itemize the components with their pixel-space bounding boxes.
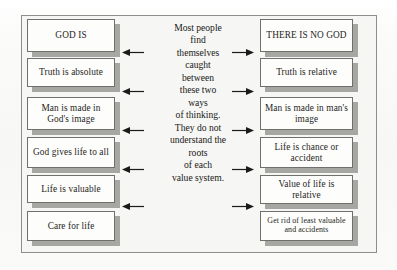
right-box-3-label: Man is made in man's image — [261, 103, 352, 124]
left-box-2: Truth is absolute — [27, 58, 115, 87]
left-box-1: GOD IS — [27, 19, 115, 52]
arrow-left-3 — [122, 126, 144, 135]
right-box-4-label: Life is chance or accident — [261, 142, 352, 163]
right-box-2-label: Truth is relative — [261, 67, 352, 77]
left-box-3-label: Man is made in God's image — [28, 103, 114, 124]
center-line: roots — [150, 147, 246, 159]
right-box-4: Life is chance or accident — [260, 137, 353, 168]
arrow-right-3 — [232, 126, 254, 135]
arrow-right-1 — [232, 48, 254, 57]
left-box-5: Life is valuable — [27, 175, 115, 203]
center-line: Most people — [150, 22, 246, 34]
right-box-6-label: Get rid of least valuable and accidents — [261, 217, 352, 235]
left-box-6: Care for life — [27, 211, 115, 241]
right-box-6: Get rid of least valuable and accidents — [260, 211, 353, 241]
left-box-3: Man is made in God's image — [27, 97, 115, 130]
left-box-4-label: God gives life to all — [28, 147, 114, 157]
right-box-5: Value of life is relative — [260, 175, 353, 204]
right-box-3: Man is made in man's image — [260, 97, 353, 130]
right-box-2: Truth is relative — [260, 58, 353, 87]
arrow-right-4 — [232, 165, 254, 174]
left-box-6-label: Care for life — [28, 221, 114, 231]
center-line: between — [150, 72, 246, 84]
arrow-left-5 — [122, 202, 144, 211]
left-box-2-label: Truth is absolute — [28, 67, 114, 77]
center-line: of thinking. — [150, 109, 246, 121]
center-line: caught — [150, 59, 246, 71]
right-box-1: THERE IS NO GOD — [260, 19, 353, 52]
left-box-4: God gives life to all — [27, 137, 115, 168]
center-line: understand the — [150, 134, 246, 146]
arrow-left-2 — [122, 87, 144, 96]
right-box-5-label: Value of life is relative — [261, 179, 352, 200]
center-narrative-text: Most people find themselves caught betwe… — [150, 22, 246, 184]
arrow-right-5 — [232, 202, 254, 211]
arrow-left-4 — [122, 165, 144, 174]
left-box-1-label: GOD IS — [28, 30, 114, 40]
arrow-right-2 — [232, 87, 254, 96]
diagram-canvas: GOD IS Truth is absolute Man is made in … — [0, 0, 397, 270]
left-box-5-label: Life is valuable — [28, 184, 114, 194]
center-line: find — [150, 34, 246, 46]
center-line: ways — [150, 97, 246, 109]
arrow-left-1 — [122, 48, 144, 57]
right-box-1-label: THERE IS NO GOD — [261, 30, 352, 40]
